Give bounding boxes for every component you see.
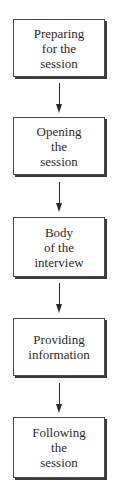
step-label: Body of the interview [34, 225, 83, 270]
step-label: Providing information [28, 332, 89, 362]
step-label: Following the session [32, 425, 85, 470]
step-following-the-session: Following the session [13, 417, 105, 478]
step-label: Preparing for the session [34, 26, 85, 71]
step-body-of-the-interview: Body of the interview [13, 217, 105, 277]
step-label: Opening the session [37, 124, 82, 169]
step-providing-information: Providing information [13, 318, 105, 376]
step-opening-the-session: Opening the session [13, 117, 105, 175]
step-preparing-for-the-session: Preparing for the session [13, 19, 105, 77]
